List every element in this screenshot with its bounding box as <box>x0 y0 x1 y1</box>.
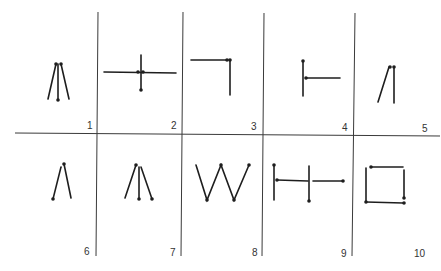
panel-4-figure <box>301 59 340 96</box>
panel-number-8: 8 <box>252 247 258 258</box>
panel-1-figure <box>48 62 69 102</box>
panel-number-10: 10 <box>414 248 426 259</box>
panel-2-figure <box>104 55 176 92</box>
panel-number-4: 4 <box>342 122 348 133</box>
grid <box>15 12 440 256</box>
panel-8-figure <box>196 163 251 202</box>
vertical-divider-4 <box>352 13 355 256</box>
panel-number-5: 5 <box>422 123 428 134</box>
panel-number-2: 2 <box>171 120 177 131</box>
panel-7-figure <box>125 163 154 201</box>
panel-10-figure <box>364 165 406 205</box>
panel-number-6: 6 <box>84 246 90 257</box>
figure-canvas: 1 2 3 4 5 6 <box>0 0 441 271</box>
panel-number-3: 3 <box>251 121 257 132</box>
panel-5-figure <box>378 65 396 103</box>
panel-number-7: 7 <box>170 247 176 258</box>
panel-number-9: 9 <box>341 248 347 259</box>
horizontal-divider <box>15 133 440 136</box>
panel-number-1: 1 <box>87 120 93 131</box>
panel-3-figure <box>191 58 232 95</box>
panel-6-figure <box>51 162 71 201</box>
panel-9-figure <box>272 163 345 203</box>
